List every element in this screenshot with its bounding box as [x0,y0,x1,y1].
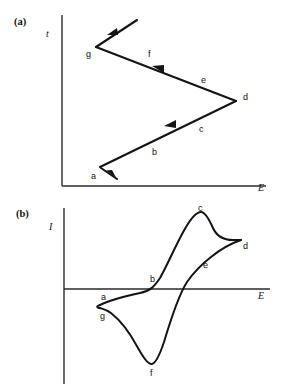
panel-a-segment-label-f: f [148,49,151,59]
panel-a-point-label-a: a [91,171,96,181]
panel-b-point-label-e: e [203,260,208,270]
panel-b-switching-closure [97,305,100,308]
panel-b-point-label-a: a [101,292,106,302]
panel-b-forward-scan-curve [100,212,241,305]
panel-b-point-label-d: d [243,241,248,251]
panel-a-y-axis-label: t [46,28,49,39]
panel-a-group: (a) t E a d g b c e f [14,15,266,193]
panel-a-start-tail [101,168,117,179]
figure-container: (a) t E a d g b c e f [0,0,283,389]
voltammetry-figure: (a) t E a d g b c e f [0,0,283,389]
panel-b-point-label-c: c [198,203,203,213]
panel-a-segment-d-to-g [96,47,236,101]
panel-a-point-label-g: g [86,49,91,59]
panel-a-label: (a) [14,16,27,28]
panel-a-segment-a-to-d [100,101,236,167]
panel-a-x-axis-label: E [257,182,264,193]
panel-a-start-arrowhead [106,170,116,178]
panel-a-segment-label-e: e [201,75,206,85]
panel-a-end-arrowhead [107,28,118,35]
panel-b-label: (b) [16,208,29,220]
panel-b-point-label-f: f [150,368,153,378]
panel-b-point-label-b: b [150,274,155,284]
panel-a-segment-label-b: b [152,147,157,157]
panel-a-point-label-d: d [243,92,248,102]
panel-a-forward-arrowhead [164,120,176,128]
panel-b-x-axis-label: E [257,290,264,301]
panel-a-segment-label-c: c [199,124,204,134]
panel-b-point-label-g: g [100,311,105,321]
panel-b-y-axis-label: I [48,221,53,232]
panel-b-group: (b) I E a b c d e f g [16,203,270,384]
